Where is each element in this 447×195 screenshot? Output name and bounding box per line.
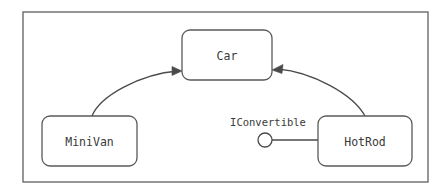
class-node-minivan[interactable]: MiniVan [42,116,137,166]
class-node-hotrod[interactable]: HotRod [318,116,412,166]
class-node-car[interactable]: Car [182,30,272,80]
arrowhead-hotrod-to-car [272,65,283,74]
interface-label-iconvertible: IConvertible [230,116,306,128]
class-label-minivan: MiniVan [65,135,113,149]
uml-class-diagram: IConvertible Car MiniVan HotRod [0,0,447,195]
edge-hotrod-to-car [272,65,365,117]
edge-minivan-to-car [92,67,182,117]
arrowhead-minivan-to-car [172,67,182,76]
diagram-canvas: IConvertible Car MiniVan HotRod [0,0,447,195]
edge-minivan-to-car-line [92,71,178,116]
class-label-car: Car [217,49,238,63]
interface-iconvertible[interactable]: IConvertible [230,116,318,147]
class-label-hotrod: HotRod [344,135,386,149]
lollipop-ball-icon[interactable] [258,133,272,147]
edge-hotrod-to-car-line [278,69,365,116]
